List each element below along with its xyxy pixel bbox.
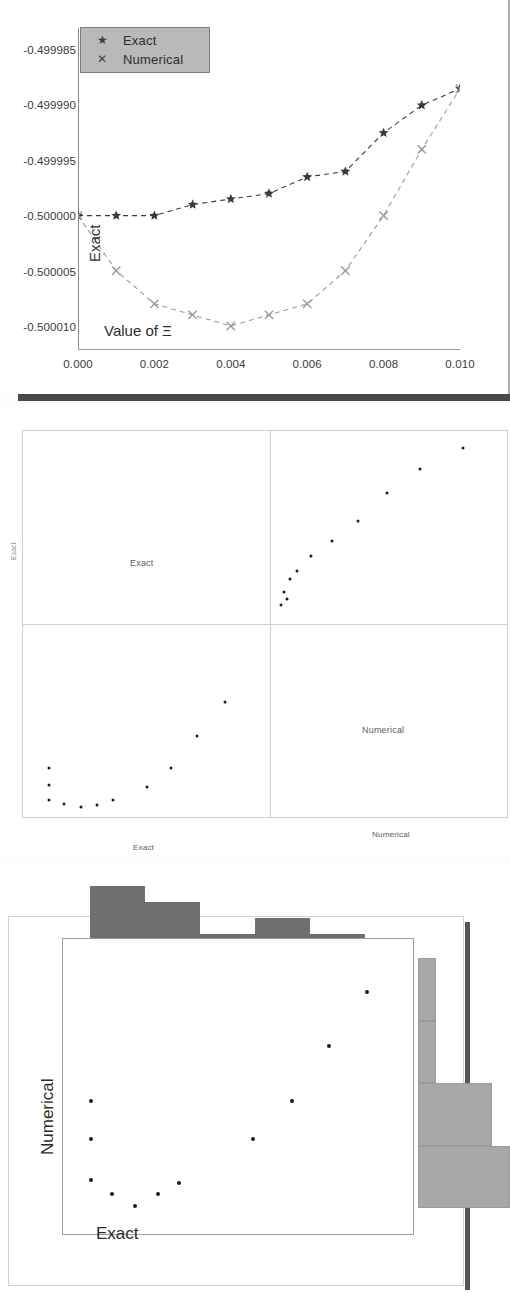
scatter-point (195, 734, 198, 737)
star-marker-icon: ★ (89, 34, 115, 46)
x-marker-icon (303, 300, 311, 308)
star-marker-icon (111, 210, 121, 219)
panel3-x-axis-label: Exact (96, 1224, 139, 1244)
x-marker-icon (341, 267, 349, 275)
histogram-bar (418, 1083, 492, 1146)
legend-item-numerical: ✕ Numerical (89, 49, 183, 69)
scatter-plot-area (62, 938, 414, 1235)
y-axis-label: Exact (86, 224, 103, 262)
x-marker-icon (188, 311, 196, 319)
figure-page: -0.499985-0.499990-0.499995-0.500000-0.5… (0, 0, 510, 1293)
scatter-point (385, 491, 388, 494)
cell-label-exact: Exact (130, 558, 154, 568)
series-exact (78, 83, 460, 219)
y-tick-label: -0.500005 (23, 272, 76, 284)
scatter-point (96, 803, 99, 806)
scatter-matrix-panel: Exact Numerical Exact Numerical (0, 408, 510, 856)
histogram-bar (418, 1146, 510, 1209)
x-marker-icon: ✕ (89, 53, 115, 65)
star-marker-icon (264, 188, 274, 197)
histogram-bar (418, 958, 436, 1021)
legend-item-exact: ★ Exact (89, 30, 157, 50)
scatter-point (418, 468, 421, 471)
scatter-matrix-grid: Exact Numerical (22, 430, 508, 818)
scatter-point (286, 597, 289, 600)
scatter-point (47, 784, 50, 787)
star-marker-icon (149, 210, 159, 219)
scatter-point (288, 578, 291, 581)
scatter-point (290, 1099, 294, 1103)
scatter-point (327, 1044, 331, 1048)
series-numerical (78, 84, 460, 330)
scatter-point (156, 1192, 160, 1196)
axis-label-left-rotated: Exact (10, 542, 17, 560)
scatter-point (283, 591, 286, 594)
scatter-point (280, 604, 283, 607)
scatter-point (224, 701, 227, 704)
grid-line-bottom (22, 817, 508, 818)
y-tick-label: -0.500000 (23, 216, 76, 228)
scatter-point (331, 540, 334, 543)
x-tick-label: 0.008 (369, 358, 398, 370)
grid-line-top (22, 430, 508, 431)
line-chart-panel: -0.499985-0.499990-0.499995-0.500000-0.5… (0, 0, 510, 396)
star-marker-icon (226, 194, 236, 203)
x-tick-label: 0.010 (445, 358, 474, 370)
grid-line-center (270, 430, 271, 818)
star-marker-icon (302, 172, 312, 181)
x-marker-icon (112, 267, 120, 275)
y-tick-label: -0.499985 (23, 50, 76, 62)
scatter-point (79, 806, 82, 809)
x-axis-line (78, 349, 460, 350)
star-marker-icon (188, 199, 198, 208)
scatter-point (47, 799, 50, 802)
scatter-point (89, 1137, 93, 1141)
axis-label-bottom-left: Exact (133, 843, 154, 852)
scatter-point (169, 767, 172, 770)
cell-label-numerical: Numerical (362, 725, 404, 735)
x-marker-icon (418, 145, 426, 153)
right-marginal-histogram (418, 958, 510, 1208)
series-line (78, 89, 460, 216)
scatter-point (461, 447, 464, 450)
axis-label-bottom-right: Numerical (372, 830, 410, 839)
star-marker-icon (340, 166, 350, 175)
grid-line-right (507, 430, 508, 818)
star-marker-icon (379, 128, 389, 137)
x-tick-label: 0.000 (63, 358, 92, 370)
y-tick-label: -0.499995 (23, 161, 76, 173)
scatter-point (111, 799, 114, 802)
chart-legend: ★ Exact ✕ Numerical (80, 27, 210, 73)
line-chart-plot-area (78, 28, 460, 348)
scatter-point (357, 519, 360, 522)
scatter-point (251, 1137, 255, 1141)
series-line (78, 89, 460, 326)
marginal-scatter-panel (0, 862, 510, 1293)
x-tick-label: 0.006 (293, 358, 322, 370)
x-marker-icon (379, 211, 387, 219)
x-tick-label: 0.004 (216, 358, 245, 370)
scatter-point (295, 569, 298, 572)
x-axis-label: Value of Ξ (104, 322, 172, 339)
scatter-point (309, 554, 312, 557)
panel3-y-axis-label: Numerical (38, 1078, 58, 1155)
y-tick-label: -0.500010 (23, 327, 76, 339)
scatter-point (89, 1099, 93, 1103)
scatter-point (145, 786, 148, 789)
grid-line-left (22, 430, 23, 818)
x-marker-icon (150, 300, 158, 308)
x-marker-icon (265, 311, 273, 319)
grid-line-middle (22, 624, 508, 625)
y-tick-label: -0.499990 (23, 105, 76, 117)
scatter-point (365, 990, 369, 994)
scatter-point (89, 1178, 93, 1182)
legend-label-numerical: Numerical (123, 52, 183, 67)
histogram-bar (418, 1021, 436, 1084)
scatter-point (133, 1204, 137, 1208)
scatter-point (62, 803, 65, 806)
x-tick-label: 0.002 (140, 358, 169, 370)
scatter-point (110, 1192, 114, 1196)
x-marker-icon (227, 322, 235, 330)
scatter-point (177, 1181, 181, 1185)
panel-separator-bar (18, 394, 510, 401)
